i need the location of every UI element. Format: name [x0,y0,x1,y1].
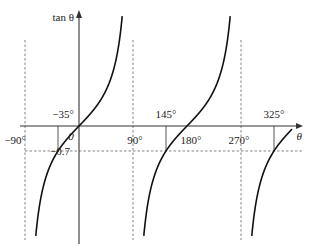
x-tick-label: −90° [4,134,26,146]
y-axis-arrow-icon [76,10,82,18]
axis-labels: tan θθ−90°90°180°270°0−0.7−35°145°325° [4,11,302,157]
solution-label: −35° [52,108,74,120]
solution-label: 325° [264,108,285,120]
y-axis-label: tan θ [53,11,74,23]
x-tick-label: 180° [181,134,202,146]
x-axis-arrow-icon [296,123,303,129]
tan-curve-branch [252,129,292,236]
tan-graph: tan θθ−90°90°180°270°0−0.7−35°145°325° [0,0,314,251]
origin-label: 0 [68,130,74,142]
x-tick-label: 270° [229,134,250,146]
reference-value-label: −0.7 [50,145,70,157]
x-axis-label: θ [297,130,303,142]
x-tick-label: 90° [127,134,142,146]
solution-label: 145° [156,108,177,120]
